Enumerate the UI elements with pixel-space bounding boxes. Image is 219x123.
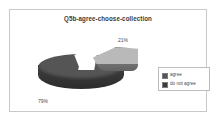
data-label-do-not-agree: 21% <box>118 37 128 43</box>
chart-legend: agree do not agree <box>158 67 210 91</box>
legend-item-agree[interactable]: agree <box>162 71 206 80</box>
legend-label-do-not-agree: do not agree <box>170 82 196 87</box>
legend-item-do-not-agree[interactable]: do not agree <box>162 80 206 89</box>
data-label-agree: 79% <box>38 98 48 104</box>
chart-frame: Q5b-agree-choose-collection 21% 79% agre… <box>9 9 207 112</box>
pie-slice-do-not-agree-top[interactable] <box>92 47 138 64</box>
legend-swatch-do-not-agree <box>162 82 168 88</box>
legend-swatch-agree <box>162 73 168 79</box>
chart-title: Q5b-agree-choose-collection <box>10 15 206 22</box>
pie-chart-plot: 21% 79% <box>30 38 150 108</box>
legend-label-agree: agree <box>170 73 182 78</box>
